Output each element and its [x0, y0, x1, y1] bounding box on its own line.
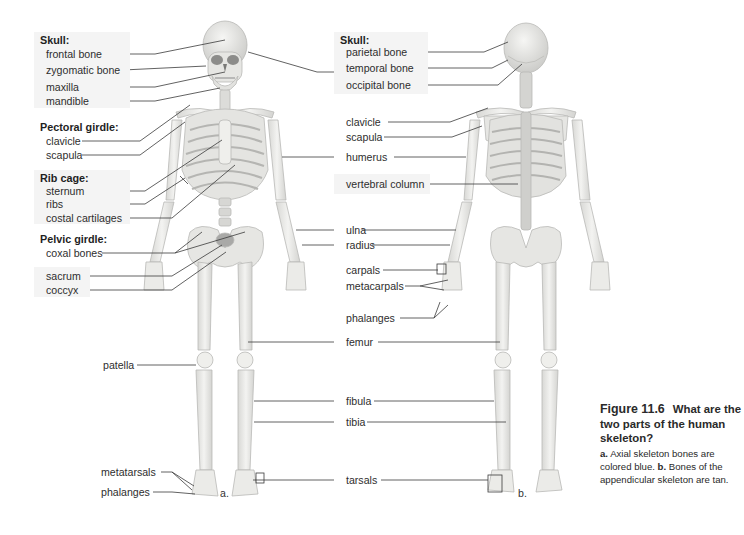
parietal-bone — [504, 23, 548, 73]
panel-label-a: a. — [220, 487, 229, 499]
label-patella: patella — [103, 359, 134, 371]
label-metacarpals: metacarpals — [346, 280, 404, 292]
label-ribs: ribs — [46, 198, 63, 210]
label-fibula: fibula — [346, 395, 371, 407]
label-carpals: carpals — [346, 264, 380, 276]
skull-header-back: Skull: — [340, 34, 369, 46]
label-femur: femur — [346, 336, 373, 348]
sternum — [219, 120, 231, 164]
label-tarsals: tarsals — [346, 474, 377, 486]
figure-number: Figure 11.6 — [600, 402, 665, 416]
caption-a-marker: a. — [600, 448, 608, 459]
label-coccyx: coccyx — [46, 284, 78, 296]
label-scapula-back: scapula — [346, 131, 383, 143]
patella-right — [197, 352, 213, 368]
femur-left — [238, 262, 252, 350]
label-sacrum: sacrum — [46, 270, 81, 282]
label-phalanges-hand: phalanges — [346, 312, 395, 324]
label-sternum: sternum — [46, 185, 84, 197]
label-occipital-bone: occipital bone — [346, 79, 411, 91]
forearm-left — [276, 202, 300, 262]
label-radius: radius — [346, 239, 375, 251]
humerus-right — [166, 120, 182, 200]
humerus-left — [268, 120, 286, 200]
tibia-right — [196, 370, 212, 470]
foot-right — [192, 470, 218, 496]
foot-left — [232, 470, 258, 496]
label-humerus: humerus — [346, 151, 387, 163]
label-coxal-bones: coxal bones — [46, 247, 103, 259]
label-parietal-bone: parietal bone — [346, 46, 407, 58]
label-clavicle-front: clavicle — [46, 135, 81, 147]
skull-header-front: Skull: — [40, 34, 69, 46]
label-mandible: mandible — [46, 95, 89, 107]
label-frontal-bone: frontal bone — [46, 48, 102, 60]
caption-title: Figure 11.6What are the two parts of the… — [600, 402, 744, 446]
label-ulna: ulna — [346, 224, 366, 236]
label-costal-cartilages: costal cartilages — [46, 212, 122, 224]
label-vertebral-column: vertebral column — [346, 178, 424, 190]
panel-label-b: b. — [518, 487, 527, 499]
vertebral-column — [521, 112, 531, 230]
pelvis-b — [491, 226, 562, 268]
label-maxilla: maxilla — [46, 81, 79, 93]
label-temporal-bone: temporal bone — [346, 62, 414, 74]
label-clavicle-back: clavicle — [346, 116, 381, 128]
caption-body: a. Axial skeleton bones are colored blue… — [600, 447, 744, 486]
pectoral-girdle-header: Pectoral girdle: — [40, 121, 119, 133]
caption-b-marker: b. — [658, 461, 667, 472]
label-scapula-front: scapula — [46, 149, 83, 161]
femur-right — [198, 262, 212, 350]
pelvic-girdle-header: Pelvic girdle: — [40, 233, 107, 245]
tibia-left — [238, 370, 254, 470]
label-tibia: tibia — [346, 416, 365, 428]
label-phalanges-foot: phalanges — [101, 486, 150, 498]
anterior-skeleton — [144, 21, 306, 496]
hand-left — [286, 262, 306, 290]
label-metatarsals: metatarsals — [101, 466, 156, 478]
figure-caption: Figure 11.6What are the two parts of the… — [600, 402, 744, 486]
patella-left — [237, 352, 253, 368]
rib-cage-header: Rib cage: — [40, 172, 89, 184]
label-zygomatic-bone: zygomatic bone — [46, 64, 120, 76]
